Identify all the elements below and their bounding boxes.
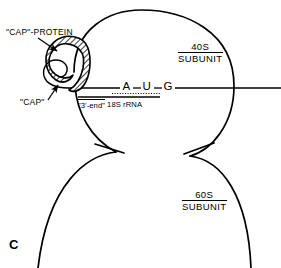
codon-base-adenine: A xyxy=(121,80,132,92)
subunit-40s-label: 40S SUBUNIT xyxy=(178,42,223,64)
rrna-end-label: "3'-end" xyxy=(78,99,105,110)
codon-base-guanine: G xyxy=(162,80,174,92)
translation-initiation-diagram: "CAP"-PROTEIN "CAP" 40S SUBUNIT 60S SUBU… xyxy=(0,0,281,268)
subunit-40s-word: SUBUNIT xyxy=(178,53,223,63)
subunit-40s-outline xyxy=(74,10,234,156)
subunit-60s-outline-right xyxy=(190,156,251,268)
rrna-annotation: "3'-end"18S rRNA xyxy=(78,101,142,109)
subunit-60s-outline xyxy=(38,152,116,268)
subunit-60s-word: SUBUNIT xyxy=(182,201,227,211)
panel-letter: C xyxy=(9,238,19,252)
cap-protein-label: "CAP"-PROTEIN xyxy=(6,28,73,37)
codon-base-uracil: U xyxy=(141,80,153,92)
subunit-interface-cusp-left xyxy=(95,144,124,153)
diagram-canvas xyxy=(0,0,281,268)
rrna-name-label: 18S rRNA xyxy=(105,100,142,109)
cap-leader-arrow xyxy=(48,85,58,100)
subunit-60s-size: 60S xyxy=(182,190,227,201)
subunit-40s-size: 40S xyxy=(178,42,223,53)
cap-label: "CAP" xyxy=(20,98,45,107)
cap-protein-shape xyxy=(46,36,90,91)
subunit-40s-outline-lower-left xyxy=(75,86,116,152)
subunit-60s-label: 60S SUBUNIT xyxy=(182,190,227,212)
